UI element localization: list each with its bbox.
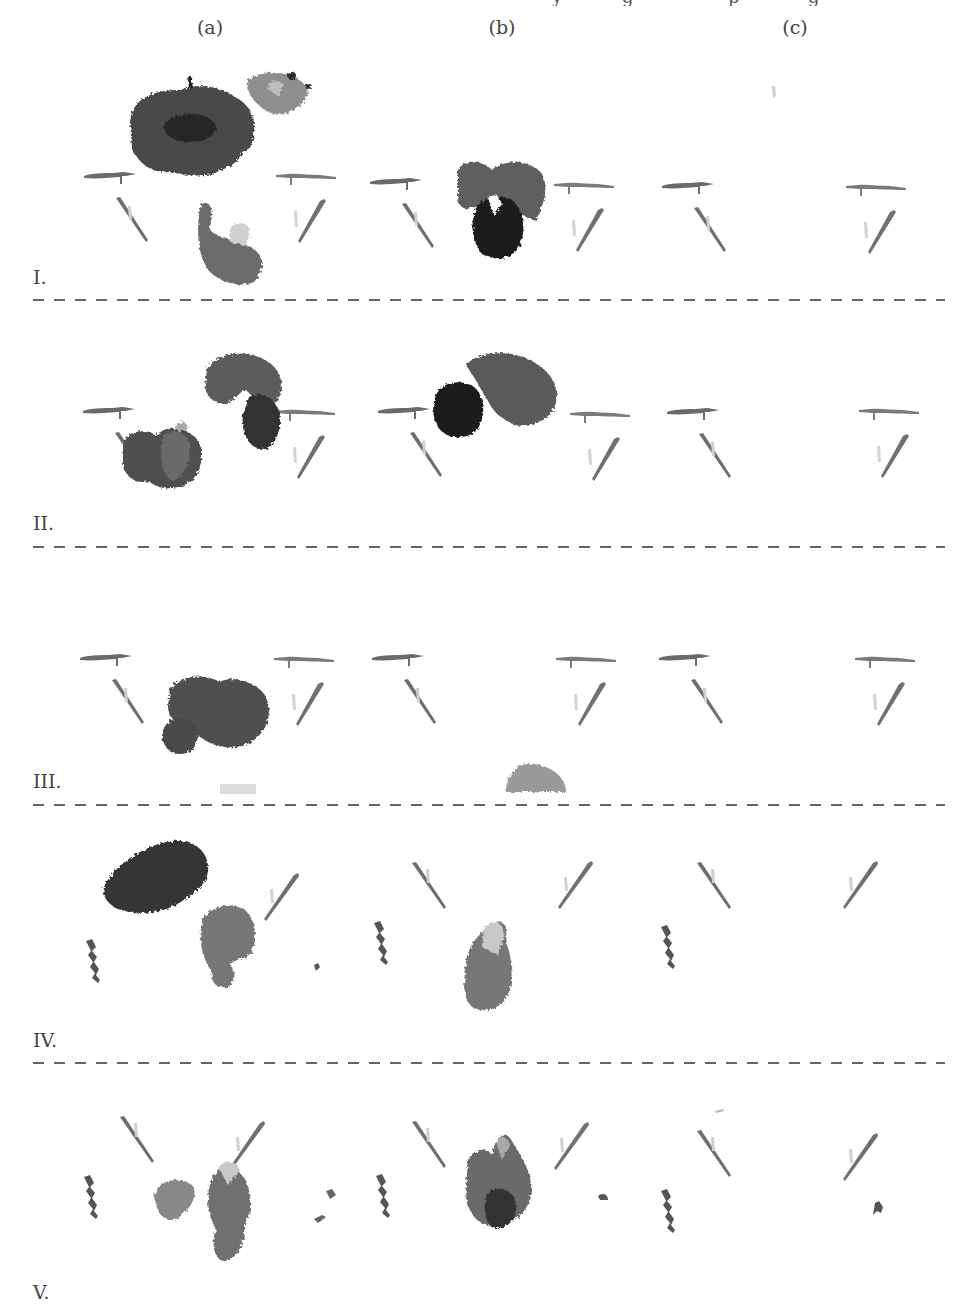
panel-row3-col-c [655, 648, 925, 748]
caption-fragment: g [622, 0, 634, 6]
panel-row4-col-b [370, 855, 630, 1055]
panel-row2-col-b [370, 345, 630, 495]
panel-row2-col-c [665, 400, 925, 490]
row-separator [33, 1062, 945, 1064]
caption-fragment: p [728, 0, 740, 6]
depth-render [78, 1115, 358, 1275]
depth-render [370, 855, 630, 1055]
panel-row1-col-c [660, 80, 920, 260]
panel-row1-col-b [360, 130, 630, 270]
panel-row3-col-a [78, 648, 358, 798]
depth-render [78, 648, 358, 798]
panel-row5-col-b [370, 1120, 630, 1250]
depth-render [360, 130, 630, 270]
depth-render [370, 345, 630, 495]
caption-fragment: y [552, 0, 562, 6]
panel-row4-col-a [80, 835, 340, 1005]
depth-render [660, 80, 920, 260]
depth-render [70, 60, 360, 290]
row-label-1: I. [33, 266, 47, 288]
row-label-5: V. [33, 1281, 49, 1303]
row-label-2: II. [33, 512, 54, 534]
depth-render [80, 835, 340, 1005]
cropped-caption-fragment: y g p g [0, 0, 975, 6]
panel-row4-col-c [655, 855, 915, 975]
depth-render [655, 1105, 915, 1235]
depth-render [655, 648, 925, 748]
column-label-b: (b) [489, 16, 516, 38]
row-separator [33, 299, 945, 301]
depth-render [75, 345, 355, 495]
row-separator [33, 546, 945, 548]
row-label-4: IV. [33, 1029, 57, 1051]
panel-row2-col-a [75, 345, 355, 495]
depth-render [655, 855, 915, 975]
panel-row3-col-b [370, 648, 630, 798]
column-label-a: (a) [197, 16, 223, 38]
depth-render [370, 1120, 630, 1250]
depth-render [370, 648, 630, 798]
panel-row5-col-c [655, 1105, 915, 1235]
depth-render [665, 400, 925, 490]
row-label-3: III. [33, 770, 62, 792]
column-label-c: (c) [782, 16, 807, 38]
panel-row5-col-a [78, 1115, 358, 1275]
caption-fragment: g [808, 0, 820, 6]
panel-row1-col-a [70, 60, 360, 290]
row-separator [33, 804, 945, 806]
